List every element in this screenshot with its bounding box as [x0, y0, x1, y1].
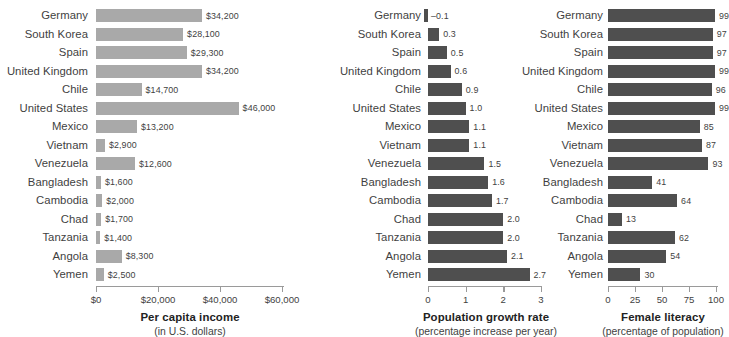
- chart-row: Chad2.0: [296, 210, 518, 229]
- bar-value-label: $46,000: [243, 102, 276, 114]
- bar-value-label: 64: [681, 195, 691, 207]
- bar: [608, 28, 713, 41]
- category-label: Chad: [296, 214, 426, 225]
- category-label: Spain: [296, 47, 426, 58]
- bar-track: 1.1: [426, 136, 518, 155]
- bar-track: $34,200: [93, 7, 296, 26]
- bar-track: 1.7: [426, 192, 518, 211]
- bar-value-label: 93: [712, 158, 722, 170]
- bar: [428, 157, 484, 170]
- bar: [608, 194, 677, 207]
- bar-track: 1.5: [426, 155, 518, 174]
- bar: [428, 120, 469, 133]
- category-label: Angola: [0, 251, 93, 262]
- bar-value-label: 1.5: [488, 158, 501, 170]
- bar-track: 1.6: [426, 173, 518, 192]
- bar-track: 64: [608, 192, 716, 211]
- category-label: Venezuela: [0, 158, 93, 169]
- x-axis-tick: [282, 287, 283, 292]
- bar: [608, 213, 622, 226]
- chart-row: Tanzania$1,400: [0, 229, 296, 248]
- x-axis-tick-label: 1: [463, 294, 468, 305]
- x-axis-tick-label: 2: [501, 294, 506, 305]
- chart-row: Vietnam$2,900: [0, 136, 296, 155]
- category-label: Tanzania: [0, 232, 93, 243]
- bar: [608, 157, 708, 170]
- bar-value-label: 0.3: [443, 28, 456, 40]
- bar-track: 97: [608, 44, 716, 63]
- bar: [608, 176, 652, 189]
- bar: [96, 139, 105, 152]
- bar-track: 62: [608, 229, 716, 248]
- bar-value-label: $2,900: [109, 139, 137, 151]
- category-label: Mexico: [0, 121, 93, 132]
- bar-value-label: 85: [704, 121, 714, 133]
- bar: [428, 65, 451, 78]
- bar-track: $46,000: [93, 99, 296, 118]
- category-label: United States: [518, 103, 608, 114]
- x-axis-tick: [96, 287, 97, 292]
- bar-value-label: 0.5: [451, 47, 464, 59]
- chart-row: Venezuela$12,600: [0, 155, 296, 174]
- bar-value-label: 54: [670, 250, 680, 262]
- chart-row: Bangladesh41: [518, 173, 716, 192]
- bar: [96, 46, 187, 59]
- x-axis-tick: [158, 287, 159, 292]
- chart-row: Chad$1,700: [0, 210, 296, 229]
- bar-value-label: $12,600: [139, 158, 172, 170]
- chart-row: Germany–0.1: [296, 7, 518, 26]
- bar-value-label: $8,300: [126, 250, 154, 262]
- bar-track: $13,200: [93, 118, 296, 137]
- bar-value-label: 1.7: [496, 195, 509, 207]
- category-label: Yemen: [518, 269, 608, 280]
- category-label: Germany: [518, 10, 608, 21]
- bar-value-label: $13,200: [141, 121, 174, 133]
- bar: [96, 231, 100, 244]
- bar: [608, 120, 700, 133]
- category-label: Chile: [0, 84, 93, 95]
- category-label: Mexico: [518, 121, 608, 132]
- chart-row: Yemen30: [518, 266, 716, 285]
- bar: [96, 28, 183, 41]
- x-axis-tick-label: 0: [425, 294, 430, 305]
- category-label: Cambodia: [296, 195, 426, 206]
- bar-track: 1.0: [426, 99, 518, 118]
- bar: [428, 139, 469, 152]
- x-axis-line: [96, 286, 284, 287]
- chart-row: Mexico85: [518, 118, 716, 137]
- x-axis-tick-label: $0: [91, 294, 102, 305]
- bar: [96, 194, 102, 207]
- x-axis-tick-label: $60,000: [265, 294, 300, 305]
- bar: [428, 268, 530, 281]
- category-label: Venezuela: [518, 158, 608, 169]
- bar: [608, 65, 715, 78]
- chart-row: South Korea97: [518, 25, 716, 44]
- bar: [428, 28, 439, 41]
- bar-track: 2.7: [426, 266, 518, 285]
- x-axis-tick: [220, 287, 221, 292]
- bar-value-label: 1.1: [473, 121, 486, 133]
- chart-row: Cambodia$2,000: [0, 192, 296, 211]
- bar-track: 93: [608, 155, 716, 174]
- chart-row: Angola2.1: [296, 247, 518, 266]
- bar: [608, 46, 713, 59]
- chart-row: Chile96: [518, 81, 716, 100]
- chart-row: Tanzania62: [518, 229, 716, 248]
- bar-value-label: $1,700: [105, 213, 133, 225]
- bar-value-label: –0.1: [431, 10, 449, 22]
- chart-row: Venezuela93: [518, 155, 716, 174]
- category-label: Yemen: [296, 269, 426, 280]
- bar-value-label: 97: [717, 28, 727, 40]
- bar: [96, 157, 135, 170]
- category-label: Bangladesh: [518, 177, 608, 188]
- category-label: Angola: [518, 251, 608, 262]
- bar-track: 99: [608, 99, 716, 118]
- category-label: Cambodia: [0, 195, 93, 206]
- x-axis-tick: [608, 287, 609, 292]
- x-axis-tick: [716, 287, 717, 292]
- bar: [608, 139, 702, 152]
- chart-row: Chad13: [518, 210, 716, 229]
- chart-panel-per-capita-income: Germany$34,200South Korea$28,100Spain$29…: [0, 0, 296, 335]
- bar-value-label: 1.1: [473, 139, 486, 151]
- bar-value-label: 0.9: [466, 84, 479, 96]
